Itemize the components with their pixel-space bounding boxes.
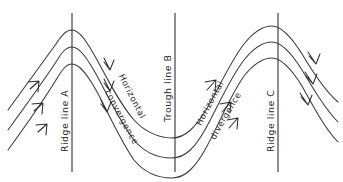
trough-line-b-label: Trough line B [162,55,173,123]
arrowhead-outflow-outer [308,52,320,64]
flow-label-group: Horizontal convergence Horizontal diverg… [103,72,243,146]
streamline-middle [8,42,338,158]
outflow-arrowheads [300,52,320,105]
streamline-group [8,26,338,178]
arrowhead-descending-outer [104,58,114,70]
streamline-inner [8,58,338,178]
arrowhead-outflow-inner [300,93,312,105]
ridge-line-a-label: Ridge line A [59,90,70,152]
streamline-outer [8,26,338,138]
axis-line-group [72,13,278,172]
ridge-line-c-label: Ridge line C [265,90,276,152]
arrowhead-inflow-outer [28,81,39,92]
wave-pattern-diagram: Ridge line A Trough line B Ridge line C … [0,0,343,182]
arrowhead-inflow-middle [32,103,43,114]
arrowhead-inflow-inner [36,124,47,135]
diagram-canvas: Ridge line A Trough line B Ridge line C … [0,0,343,182]
